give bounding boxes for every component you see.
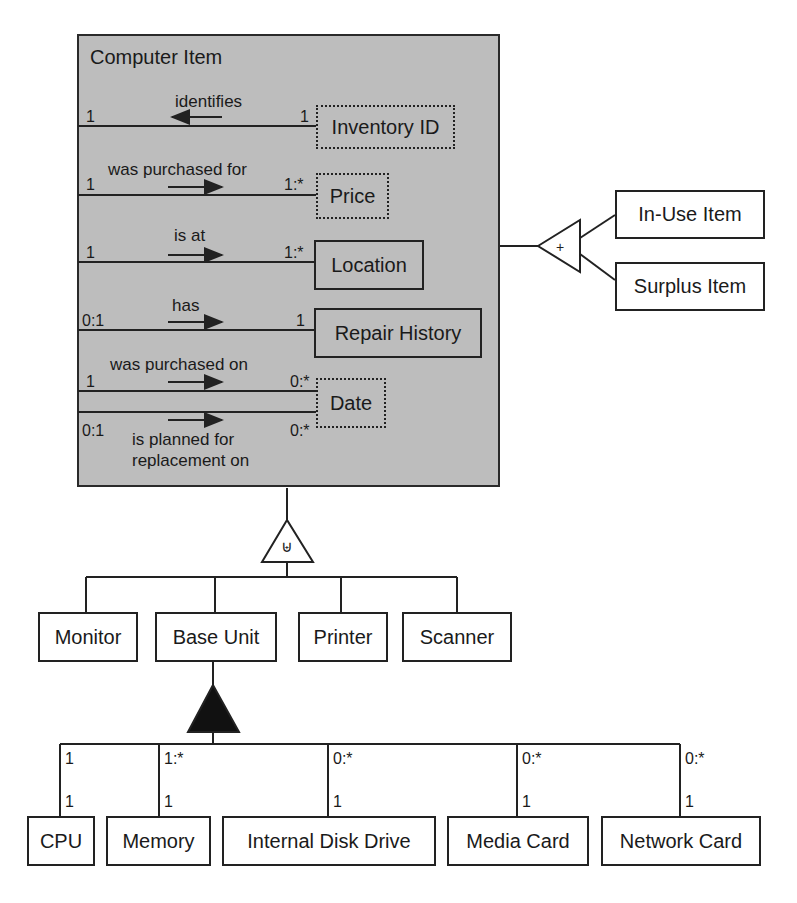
in-use-item-entity: In-Use Item xyxy=(615,190,765,239)
whole-mult: 1:* xyxy=(164,750,184,768)
svg-text:+: + xyxy=(556,239,564,255)
inventory-id-entity: Inventory ID xyxy=(316,105,455,149)
location-entity: Location xyxy=(314,240,424,290)
rel-to-mult: 0:* xyxy=(290,422,310,440)
rel-to-mult: 1:* xyxy=(284,176,304,194)
rel-from-mult: 1 xyxy=(86,108,95,126)
part-mult: 1 xyxy=(65,793,74,811)
svg-text:⊎: ⊎ xyxy=(281,538,293,555)
surplus-item-entity: Surplus Item xyxy=(615,262,765,311)
part-mult: 1 xyxy=(685,793,694,811)
internal-disk-drive-entity: Internal Disk Drive xyxy=(222,816,436,866)
rel-from-mult: 0:1 xyxy=(82,312,104,330)
memory-entity: Memory xyxy=(106,816,211,866)
rel-label-has: has xyxy=(172,296,199,316)
rel-label-planned-line2: replacement on xyxy=(132,451,249,471)
rel-from-mult: 1 xyxy=(86,244,95,262)
part-mult: 1 xyxy=(164,793,173,811)
rel-to-mult: 0:* xyxy=(290,373,310,391)
rel-to-mult: 1:* xyxy=(284,244,304,262)
rel-to-mult: 1 xyxy=(296,312,305,330)
rel-from-mult: 0:1 xyxy=(82,422,104,440)
rel-label-identifies: identifies xyxy=(175,92,242,112)
part-mult: 1 xyxy=(333,793,342,811)
cpu-entity: CPU xyxy=(27,816,95,866)
price-entity: Price xyxy=(316,173,389,219)
rel-label-was-purchased-on: was purchased on xyxy=(110,355,248,375)
date-entity: Date xyxy=(316,378,386,428)
rel-label-was-purchased-for: was purchased for xyxy=(108,160,247,180)
whole-mult: 0:* xyxy=(685,750,705,768)
rel-label-is-at: is at xyxy=(174,226,205,246)
whole-mult: 0:* xyxy=(333,750,353,768)
whole-mult: 1 xyxy=(65,750,74,768)
scanner-entity: Scanner xyxy=(402,612,512,662)
monitor-entity: Monitor xyxy=(38,612,138,662)
rel-to-mult: 1 xyxy=(300,108,309,126)
network-card-entity: Network Card xyxy=(601,816,761,866)
whole-mult: 0:* xyxy=(522,750,542,768)
base-unit-entity: Base Unit xyxy=(155,612,277,662)
repair-history-entity: Repair History xyxy=(314,308,482,358)
part-mult: 1 xyxy=(522,793,531,811)
rel-from-mult: 1 xyxy=(86,373,95,391)
printer-entity: Printer xyxy=(298,612,388,662)
rel-label-planned-line1: is planned for xyxy=(132,430,234,450)
media-card-entity: Media Card xyxy=(447,816,589,866)
rel-from-mult: 1 xyxy=(86,176,95,194)
